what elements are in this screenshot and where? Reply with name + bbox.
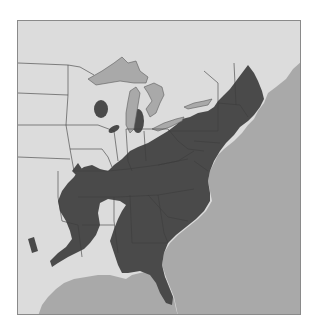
range-patch-wisconsin [94, 100, 108, 118]
range-map [18, 21, 301, 315]
map-frame: Species range map — eastern United State… [17, 20, 301, 315]
